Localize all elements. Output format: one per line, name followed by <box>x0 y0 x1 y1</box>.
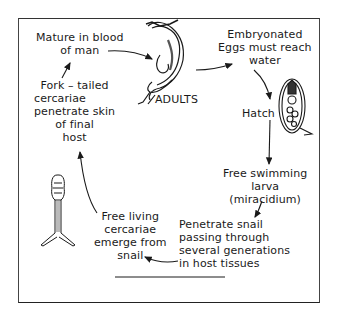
arrow-cercariae-to-fork <box>80 152 97 213</box>
label-eggs: Embryonated Eggs must reach water <box>218 28 312 67</box>
label-line: host <box>34 131 115 144</box>
label-line: cercariae <box>94 223 167 236</box>
label-line: water <box>218 54 312 67</box>
label-line: Hatch <box>242 107 275 120</box>
label-cercariae: Free living cercariae emerge from snail <box>94 210 167 262</box>
label-line: Fork – tailed <box>34 79 115 92</box>
label-snail: Penetrate snail passing through several … <box>179 218 290 270</box>
label-line: in host tissues <box>179 257 290 270</box>
label-fork-tailed: Fork – tailed cercariae penetrate skin o… <box>34 79 115 144</box>
label-miracidium: Free swimming larva (miracidium) <box>223 167 307 206</box>
label-line: Mature in blood <box>36 31 124 44</box>
adult-worms-icon <box>138 20 183 104</box>
label-line: (miracidium) <box>223 193 307 206</box>
label-line: of final <box>34 118 115 131</box>
label-hatch: Hatch <box>242 107 275 120</box>
egg-embryo-icon <box>279 79 312 135</box>
label-line: Embryonated <box>218 28 312 41</box>
label-line: Penetrate snail <box>179 218 290 231</box>
label-adults: ADULTS <box>155 93 198 106</box>
label-line: Free swimming <box>223 167 307 180</box>
label-line: emerge from <box>94 236 167 249</box>
label-line: of man <box>36 44 124 57</box>
label-line: passing through <box>179 231 290 244</box>
label-line: penetrate skin <box>34 105 115 118</box>
arrow-fork-to-mature <box>62 63 70 78</box>
arrow-hatch-to-larva <box>269 120 270 164</box>
label-line: ADULTS <box>155 93 198 106</box>
label-line: Free living <box>94 210 167 223</box>
cercaria-icon <box>41 175 75 246</box>
label-line: snail <box>94 249 167 262</box>
label-line: larva <box>223 180 307 193</box>
label-line: cercariae <box>34 92 115 105</box>
label-line: several generations <box>179 244 290 257</box>
label-line: Eggs must reach <box>218 41 312 54</box>
label-mature: Mature in blood of man <box>36 31 124 57</box>
arrow-eggs-to-hatch <box>254 70 270 99</box>
